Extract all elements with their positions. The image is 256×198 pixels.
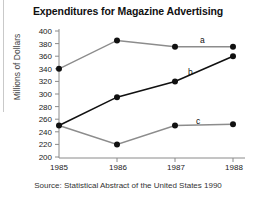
data-point (172, 78, 178, 84)
data-point (114, 141, 120, 147)
series-markers-b (56, 53, 236, 128)
series-line-c (59, 124, 233, 144)
data-point (230, 53, 236, 59)
series-line-b (59, 56, 233, 125)
data-point (56, 123, 62, 129)
chart-figure: Expenditures for Magazine Advertising Mi… (0, 0, 256, 198)
series-line-a (59, 40, 233, 68)
data-point (114, 37, 120, 43)
source-note: Source: Statistical Abstract of the Unit… (0, 181, 256, 190)
y-tick-marks (55, 31, 59, 157)
data-point (114, 94, 120, 100)
data-point (172, 123, 178, 129)
data-point (172, 44, 178, 50)
data-point (230, 121, 236, 127)
x-tick-marks (117, 158, 233, 162)
data-point (230, 44, 236, 50)
data-point (56, 66, 62, 72)
plot-area (0, 0, 256, 198)
